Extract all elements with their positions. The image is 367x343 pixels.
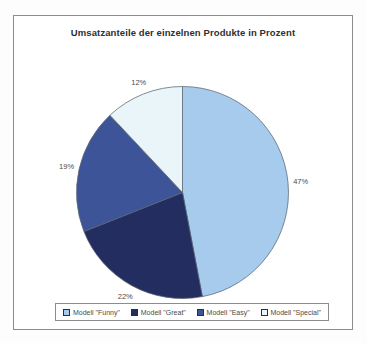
legend-swatch-2: [131, 309, 138, 316]
legend-item-2: Modell "Great": [131, 309, 186, 316]
pie-data-label-3: 19%: [59, 162, 74, 171]
pie-data-label-1: 47%: [293, 177, 308, 186]
legend-item-4: Modell "Special": [261, 309, 322, 316]
pie-data-label-2: 22%: [118, 292, 133, 301]
legend-item-3: Modell "Easy": [197, 309, 250, 316]
pie-data-label-4: 12%: [131, 78, 146, 87]
legend-item-1: Modell "Funny": [63, 309, 120, 316]
pie-slice-1: [183, 87, 289, 297]
chart-legend: Modell "Funny"Modell "Great"Modell "Easy…: [55, 303, 329, 321]
chart-page: Umsatzanteile der einzelnen Produkte in …: [0, 0, 367, 343]
legend-item-label: Modell "Funny": [73, 309, 120, 316]
legend-item-label: Modell "Great": [141, 309, 186, 316]
legend-swatch-1: [63, 309, 70, 316]
legend-swatch-4: [261, 309, 268, 316]
legend-item-label: Modell "Easy": [207, 309, 250, 316]
legend-swatch-3: [197, 309, 204, 316]
legend-item-label: Modell "Special": [271, 309, 322, 316]
chart-frame: Umsatzanteile der einzelnen Produkte in …: [13, 15, 353, 330]
pie-chart: 47%22%19%12%: [14, 16, 351, 328]
